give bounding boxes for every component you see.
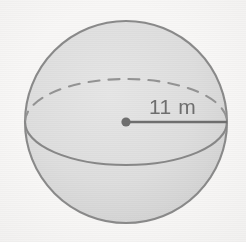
radius-measure-label: 11 m bbox=[149, 95, 196, 118]
sphere-diagram: 11 m bbox=[0, 0, 246, 242]
center-point-dot bbox=[121, 117, 130, 126]
sphere-diagram-svg: 11 m bbox=[0, 0, 246, 242]
